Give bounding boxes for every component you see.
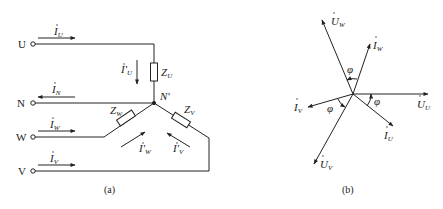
label-phasor-uu: UU	[417, 98, 431, 112]
label-node-n-prime: N'	[159, 90, 170, 102]
caption-a: (a)	[104, 184, 115, 196]
impedance-zu	[151, 63, 158, 81]
label-v: V	[18, 165, 26, 177]
label-ipu: I'U	[120, 63, 133, 77]
label-zv: ZV	[184, 103, 195, 117]
phasor-uv	[314, 94, 353, 164]
terminal-n	[31, 101, 35, 105]
label-current-iv: IV	[49, 152, 59, 166]
label-phi-v: φ	[327, 102, 333, 114]
label-phasor-iv: IV	[293, 101, 303, 115]
label-current-iu: IU	[53, 25, 64, 39]
terminal-v	[31, 169, 35, 173]
diagram-canvas: U N W V IU IN IW IV I'U I'W I'V ZU ZW ZV…	[0, 0, 443, 209]
terminal-w	[31, 135, 35, 139]
label-phi-w: φ	[347, 63, 353, 75]
label-phasor-uw: UW	[331, 15, 346, 29]
label-zw: ZW	[110, 104, 123, 118]
phasor-diagram	[308, 20, 428, 164]
label-n: N	[17, 97, 25, 109]
label-zu: ZU	[161, 66, 173, 80]
label-phasor-iw: IW	[372, 39, 384, 53]
label-phasor-iu: IU	[383, 129, 394, 143]
label-w: W	[16, 131, 27, 143]
angle-arc-u	[367, 94, 371, 106]
angle-arc-v	[338, 99, 345, 107]
label-u: U	[18, 38, 26, 50]
phasor-dot-markers	[296, 12, 420, 156]
label-ipv: I'V	[172, 142, 184, 156]
phasor-uw	[322, 20, 353, 94]
label-phasor-uv: UV	[320, 158, 333, 172]
label-phi-u: φ	[374, 95, 380, 107]
label-ipw: I'W	[138, 142, 152, 156]
phasor-iw	[353, 44, 370, 94]
wire-u	[35, 44, 154, 63]
angle-arc-w	[347, 79, 357, 80]
phasor-iu	[353, 94, 393, 126]
label-current-iw: IW	[49, 118, 61, 132]
terminal-u	[31, 42, 35, 46]
caption-b: (b)	[342, 184, 354, 196]
label-current-in: IN	[51, 83, 61, 97]
